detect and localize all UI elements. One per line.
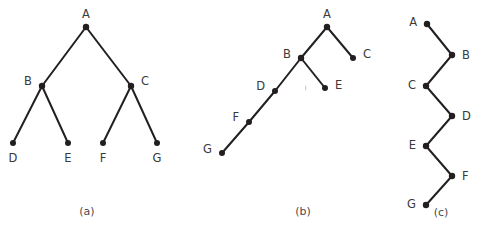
tree-node-c-G[interactable] — [423, 202, 429, 208]
tree-node-label-b-E: E — [335, 78, 342, 92]
tree-node-b-C[interactable] — [350, 55, 356, 61]
tree-node-c-C[interactable] — [423, 83, 429, 89]
tree-edge-c-EF — [426, 146, 452, 176]
tree-node-b-G[interactable] — [219, 150, 225, 156]
tree-node-c-B[interactable] — [449, 52, 455, 58]
tree-node-label-c-D: D — [462, 109, 471, 123]
tree-node-label-b-G: G — [203, 142, 212, 156]
tree-node-b-F[interactable] — [246, 119, 252, 125]
figure-container: ABCDEFG(a)ABCDEFG(b)ABCDEFG(c) — [0, 0, 478, 238]
tree-node-label-b-F: F — [232, 110, 239, 124]
tree-edge-b-AB — [301, 27, 327, 58]
tree-edge-b-BD — [275, 58, 301, 91]
tree-node-label-a-G: G — [153, 151, 162, 165]
panel-caption-a: (a) — [79, 205, 94, 218]
tree-node-label-b-B: B — [283, 47, 291, 61]
tree-node-c-E[interactable] — [423, 143, 429, 149]
tree-node-label-c-E: E — [409, 138, 416, 152]
tree-node-b-B[interactable] — [298, 55, 304, 61]
tree-node-label-a-B: B — [24, 74, 32, 88]
tree-edge-b-BE — [301, 58, 325, 88]
tree-node-c-F[interactable] — [449, 173, 455, 179]
tree-edge-a-AC — [86, 27, 131, 86]
tree-edge-b-DF — [249, 91, 275, 122]
tree-node-label-a-A: A — [82, 7, 90, 21]
tree-node-a-D[interactable] — [10, 140, 16, 146]
tree-node-b-E[interactable] — [322, 85, 328, 91]
tree-node-label-a-F: F — [100, 151, 107, 165]
tree-edge-c-BC — [426, 55, 452, 86]
tree-node-a-C[interactable] — [128, 83, 134, 89]
scan-artifact-0 — [305, 86, 306, 91]
tree-node-a-G[interactable] — [154, 140, 160, 146]
tree-node-a-E[interactable] — [65, 140, 71, 146]
tree-node-b-A[interactable] — [324, 24, 330, 30]
tree-node-label-c-A: A — [409, 15, 417, 29]
tree-panel-c: ABCDEFG(c) — [407, 15, 471, 220]
tree-node-b-D[interactable] — [272, 88, 278, 94]
tree-node-c-D[interactable] — [449, 113, 455, 119]
tree-node-c-A[interactable] — [424, 21, 430, 27]
tree-edge-a-CF — [103, 86, 131, 143]
tree-edge-b-AC — [327, 27, 353, 58]
tree-panel-a: ABCDEFG(a) — [9, 7, 162, 219]
tree-node-label-c-G: G — [407, 197, 416, 211]
tree-edge-a-BD — [13, 86, 42, 143]
tree-node-label-c-C: C — [408, 78, 416, 92]
tree-edge-a-CG — [131, 86, 157, 143]
edge-layer-a — [13, 27, 157, 143]
tree-node-label-b-C: C — [363, 47, 371, 61]
tree-node-a-A[interactable] — [83, 24, 89, 30]
tree-diagrams-svg: ABCDEFG(a)ABCDEFG(b)ABCDEFG(c) — [0, 0, 478, 238]
node-layer-b: ABCDEFG — [203, 7, 371, 157]
tree-node-label-a-D: D — [9, 151, 18, 165]
panel-caption-c: (c) — [434, 206, 449, 219]
tree-panel-b: ABCDEFG(b) — [203, 7, 371, 219]
diagram-layers: ABCDEFG(a)ABCDEFG(b)ABCDEFG(c) — [9, 7, 471, 220]
node-layer-a: ABCDEFG — [9, 7, 162, 165]
tree-node-a-B[interactable] — [39, 83, 45, 89]
tree-edge-a-AB — [42, 27, 86, 86]
tree-node-label-b-D: D — [256, 79, 265, 93]
panel-caption-b: (b) — [295, 205, 311, 218]
tree-edge-c-AB — [427, 24, 452, 55]
tree-edge-c-FG — [426, 176, 452, 205]
tree-node-label-c-B: B — [462, 48, 470, 62]
tree-node-label-a-E: E — [64, 151, 71, 165]
edge-layer-c — [426, 24, 452, 205]
tree-node-label-b-A: A — [323, 7, 331, 21]
tree-edge-a-BE — [42, 86, 68, 143]
node-layer-c: ABCDEFG — [407, 15, 471, 211]
tree-edge-c-DE — [426, 116, 452, 146]
tree-node-a-F[interactable] — [100, 140, 106, 146]
tree-edge-c-CD — [426, 86, 452, 116]
tree-node-label-a-C: C — [141, 74, 149, 88]
tree-edge-b-FG — [222, 122, 249, 153]
tree-node-label-c-F: F — [462, 169, 469, 183]
